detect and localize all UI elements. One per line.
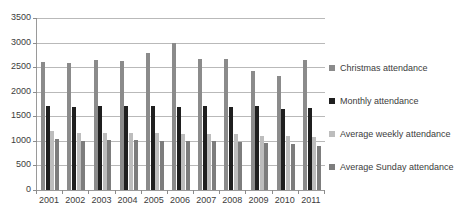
bar: [312, 137, 316, 190]
bar: [124, 106, 128, 190]
bar: [281, 109, 285, 190]
y-tick-label: 500: [1, 160, 31, 169]
y-tick-label: 3000: [1, 38, 31, 47]
bar: [155, 133, 159, 190]
legend-item-label: Average weekly attendance: [340, 129, 450, 139]
plot-area: [36, 18, 325, 191]
x-tick-mark: [193, 190, 194, 194]
legend-item-label: Christmas attendance: [340, 63, 428, 73]
bar: [94, 60, 98, 190]
legend-item-label: Average Sunday attendance: [340, 162, 453, 172]
bar-chart: Church attendance 0500100015002000250030…: [0, 0, 456, 220]
bar-group: [198, 18, 216, 190]
x-tick-label: 2010: [272, 195, 298, 206]
bar-group: [41, 18, 59, 190]
bar-group: [224, 18, 242, 190]
bar: [67, 63, 71, 190]
x-tick-label: 2006: [167, 195, 193, 206]
x-tick-label: 2009: [245, 195, 271, 206]
bar: [207, 134, 211, 191]
chart-title: Church attendance: [0, 0, 330, 2]
x-tick-label: 2005: [141, 195, 167, 206]
bar: [98, 106, 102, 190]
x-tick-mark: [141, 190, 142, 194]
bar: [172, 43, 176, 190]
x-tick-mark: [219, 190, 220, 194]
y-tick-label: 2500: [1, 62, 31, 71]
y-tick-label: 3500: [1, 13, 31, 22]
bar-group: [251, 18, 269, 190]
x-tick-mark: [115, 190, 116, 194]
bar: [46, 106, 50, 190]
x-axis-ticks: [36, 190, 324, 194]
x-tick-mark: [298, 190, 299, 194]
bar: [151, 106, 155, 190]
bar: [277, 76, 281, 190]
bar-group: [277, 18, 295, 190]
bar-group: [172, 18, 190, 190]
bar-group: [303, 18, 321, 190]
bar: [55, 139, 59, 190]
bar: [234, 134, 238, 190]
bar: [160, 141, 164, 190]
x-tick-mark: [272, 190, 273, 194]
bar: [103, 133, 107, 190]
bar: [203, 106, 207, 190]
bar: [264, 143, 268, 190]
bar: [50, 131, 54, 190]
bar: [41, 62, 45, 190]
bar: [81, 141, 85, 190]
bar: [286, 136, 290, 190]
x-tick-label: 2007: [193, 195, 219, 206]
y-axis: 0500100015002000250030003500: [0, 18, 31, 190]
bar: [186, 141, 190, 190]
bar-group: [67, 18, 85, 190]
legend-swatch-icon: [329, 164, 335, 170]
x-tick-mark: [88, 190, 89, 194]
x-tick-label: 2011: [298, 195, 324, 206]
bar: [198, 59, 202, 190]
x-axis: 2001200220032004200520062007200820092010…: [36, 195, 324, 207]
bar: [129, 133, 133, 190]
bar: [238, 142, 242, 190]
y-tick-label: 0: [1, 185, 31, 194]
bar-group: [146, 18, 164, 190]
x-tick-mark: [62, 190, 63, 194]
x-tick-label: 2003: [88, 195, 114, 206]
bar: [134, 140, 138, 190]
bar: [260, 136, 264, 190]
x-tick-label: 2002: [62, 195, 88, 206]
y-tick-label: 2000: [1, 87, 31, 96]
x-tick-label: 2008: [219, 195, 245, 206]
x-tick-label: 2001: [36, 195, 62, 206]
bar: [146, 53, 150, 190]
y-tick-label: 1500: [1, 111, 31, 120]
x-tick-mark: [324, 190, 325, 194]
x-tick-mark: [167, 190, 168, 194]
legend-item[interactable]: Monthly attendance: [329, 95, 419, 107]
bar: [251, 71, 255, 190]
legend-swatch-icon: [329, 65, 335, 71]
legend-item-label: Monthly attendance: [340, 96, 419, 106]
bar-group: [120, 18, 138, 190]
bar: [303, 60, 307, 190]
legend-swatch-icon: [329, 131, 335, 137]
bar: [107, 140, 111, 190]
y-tick-label: 1000: [1, 136, 31, 145]
bar: [317, 146, 321, 190]
bar: [308, 108, 312, 190]
legend-item[interactable]: Average weekly attendance: [329, 128, 450, 140]
bar: [120, 61, 124, 190]
bar: [177, 107, 181, 190]
x-tick-label: 2004: [115, 195, 141, 206]
legend-item[interactable]: Christmas attendance: [329, 62, 428, 74]
bar: [72, 107, 76, 190]
bar: [255, 106, 259, 190]
bar: [181, 134, 185, 191]
legend-item[interactable]: Average Sunday attendance: [329, 161, 453, 173]
bar-group: [94, 18, 112, 190]
legend-swatch-icon: [329, 98, 335, 104]
x-tick-mark: [36, 190, 37, 194]
bar: [224, 59, 228, 190]
bar: [229, 107, 233, 190]
